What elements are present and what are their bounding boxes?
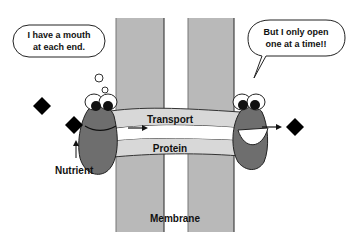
nutrient-diamond-out [286,118,304,136]
bubble-right-line2: one at a time!! [265,39,326,49]
bubble-left-line2: at each end. [33,42,85,52]
nutrient-diamond-1 [33,97,51,115]
membrane-label: Membrane [150,213,200,224]
arrow-up-icon [73,140,79,158]
bubble-left-line1: I have a mouth [27,30,90,40]
thought-dot-large [95,74,103,82]
protein-creature-left [79,94,118,174]
transport-protein-diagram: Transport Protein Nutrient [0,0,347,239]
thought-dot-small [102,87,108,93]
transport-label: Transport [147,114,194,125]
protein-creature-right [233,94,268,170]
bubble-right-line1: But I only open [264,27,329,37]
nutrient-label: Nutrient [55,165,94,176]
protein-label: Protein [153,143,187,154]
